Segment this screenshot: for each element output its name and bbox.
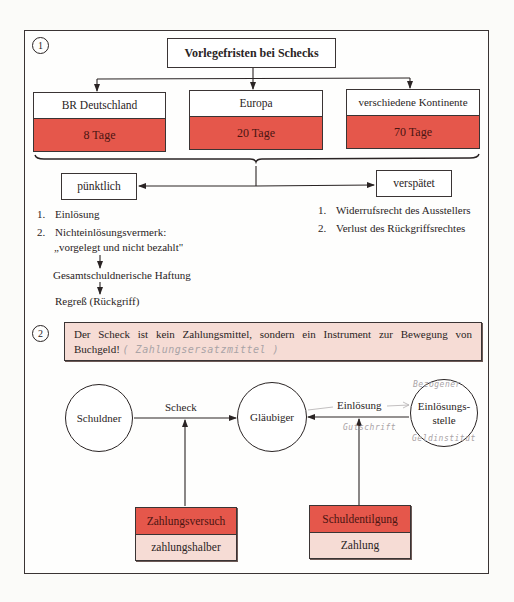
days-label: 70 Tage <box>347 116 479 148</box>
role-title: Schuldentilgung <box>310 506 410 533</box>
statement-box: Der Scheck ist kein Zahlungsmittel, sond… <box>64 322 482 361</box>
role-subtitle: Zahlung <box>310 533 410 558</box>
creditor-circle: Gläubiger <box>237 382 307 452</box>
item-number: 1. <box>318 203 336 218</box>
region-label: Europa <box>190 91 322 117</box>
check-flow-label: Scheck <box>165 401 197 413</box>
section-number-1: 1 <box>32 37 49 54</box>
period-box-germany: BR Deutschland 8 Tage <box>33 92 166 152</box>
handwritten-drawee: Bezogener <box>413 380 461 389</box>
item-number: 2. <box>37 225 55 240</box>
days-label: 8 Tage <box>34 119 165 151</box>
on-time-box: pünktlich <box>61 173 137 200</box>
item-text: Nichteinlösungsvermerk: <box>55 225 166 240</box>
item-subtext: „vorgelegt und nicht bezahlt" <box>37 240 237 255</box>
debt-settlement-box: Schuldentilgung Zahlung <box>309 505 411 559</box>
statement-line-1: Der Scheck ist kein Zahlungsmittel, sond… <box>74 327 472 342</box>
period-box-europe: Europa 20 Tage <box>189 90 323 150</box>
debtor-label: Schuldner <box>77 411 122 425</box>
redemption-flow-label: Einlösung <box>337 399 382 411</box>
chain-step-1: Gesamtschuldnerische Haftung <box>53 268 191 283</box>
redemption-label-1: Einlösungs- <box>418 400 471 412</box>
role-title: Zahlungsversuch <box>136 508 236 535</box>
item-text: Widerrufsrecht des Ausstellers <box>336 203 471 218</box>
title-box: Vorlegefristen bei Schecks <box>167 38 336 68</box>
item-text: Verlust des Rückgriffsrechtes <box>336 221 465 236</box>
role-subtitle: zahlungshalber <box>136 535 236 560</box>
statement-line-2: Buchgeld! <box>74 343 120 355</box>
section-number-2: 2 <box>32 325 49 342</box>
late-consequences: 1.Widerrufsrecht des Ausstellers 2.Verlu… <box>318 203 493 236</box>
days-label: 20 Tage <box>190 117 322 149</box>
debtor-circle: Schuldner <box>65 384 133 452</box>
item-number: 2. <box>318 221 336 236</box>
item-text: Einlösung <box>55 207 100 222</box>
chain-step-2: Regreß (Rückgriff) <box>55 294 139 309</box>
region-label: verschiedene Kontinente <box>347 90 479 116</box>
creditor-label: Gläubiger <box>250 410 294 424</box>
on-time-consequences: 1.Einlösung 2.Nichteinlösungsvermerk: „v… <box>37 207 237 255</box>
period-box-continents: verschiedene Kontinente 70 Tage <box>346 89 480 149</box>
handwritten-credit: Gutschrift <box>343 423 396 432</box>
payment-attempt-box: Zahlungsversuch zahlungshalber <box>135 507 237 561</box>
item-number: 1. <box>37 207 55 222</box>
handwritten-note: ( Zahlungsersatzmittel ) <box>123 344 280 355</box>
region-label: BR Deutschland <box>34 93 165 119</box>
handwritten-bank: Geldinstitut <box>412 434 476 443</box>
redemption-label-2: stelle <box>432 414 455 426</box>
late-box: verspätet <box>376 170 452 197</box>
